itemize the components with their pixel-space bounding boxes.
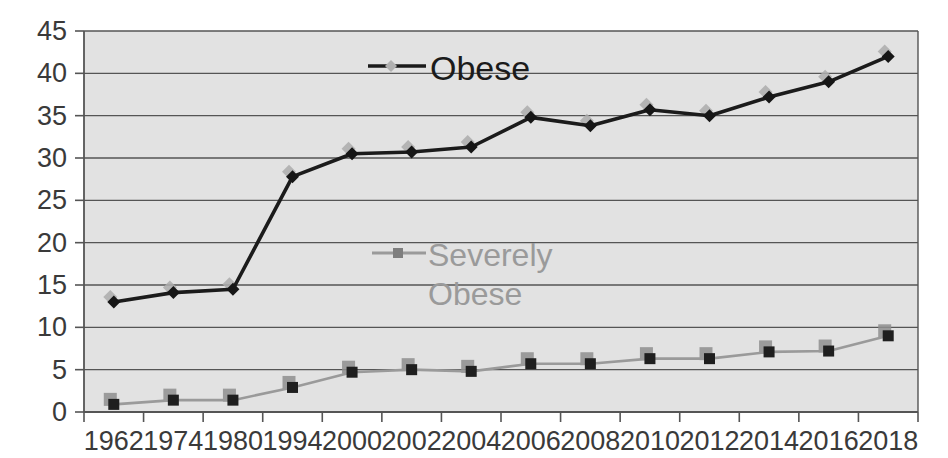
x-tick-label: 2002 xyxy=(382,426,442,456)
x-tick-label: 2000 xyxy=(322,426,382,456)
x-axis-tick-labels: 1962197419801994200020022004200620082010… xyxy=(84,412,919,456)
y-tick-label: 20 xyxy=(37,228,67,258)
x-tick-label: 1994 xyxy=(262,426,322,456)
data-point xyxy=(168,395,179,406)
data-point xyxy=(883,330,894,341)
legend-label-severely-obese-line2: Obese xyxy=(428,276,522,312)
y-tick-label: 35 xyxy=(37,101,67,131)
line-chart: 0510152025303540451962197419801994200020… xyxy=(0,0,948,458)
plot-area-background xyxy=(84,31,918,412)
legend-label-severely-obese-line1: Severely xyxy=(428,237,553,273)
legend-marker-severely-obese xyxy=(393,248,403,258)
data-point xyxy=(347,367,358,378)
y-tick-label: 15 xyxy=(37,270,67,300)
x-tick-label: 1980 xyxy=(203,426,263,456)
data-point xyxy=(823,346,834,357)
data-point xyxy=(227,395,238,406)
x-tick-label: 1974 xyxy=(143,426,203,456)
data-point xyxy=(704,353,715,364)
y-tick-label: 40 xyxy=(37,58,67,88)
x-tick-label: 1962 xyxy=(84,426,144,456)
y-tick-label: 25 xyxy=(37,185,67,215)
y-axis-tick-labels: 051015202530354045 xyxy=(37,16,67,427)
x-tick-label: 2016 xyxy=(799,426,859,456)
data-point xyxy=(287,382,298,393)
data-point xyxy=(525,358,536,369)
x-tick-label: 2008 xyxy=(560,426,620,456)
data-point xyxy=(764,346,775,357)
data-point xyxy=(108,399,119,410)
y-tick-label: 10 xyxy=(37,312,67,342)
data-point xyxy=(406,364,417,375)
legend-label-obese: Obese xyxy=(430,49,530,87)
x-tick-label: 2010 xyxy=(620,426,680,456)
y-tick-label: 45 xyxy=(37,16,67,46)
y-tick-label: 5 xyxy=(52,355,67,385)
data-point xyxy=(644,353,655,364)
x-tick-label: 2018 xyxy=(858,426,918,456)
x-tick-label: 2004 xyxy=(441,426,501,456)
data-point xyxy=(585,358,596,369)
x-tick-label: 2006 xyxy=(501,426,561,456)
data-point xyxy=(466,366,477,377)
y-tick-label: 0 xyxy=(52,397,67,427)
y-tick-label: 30 xyxy=(37,143,67,173)
x-tick-label: 2012 xyxy=(679,426,739,456)
chart-container: 0510152025303540451962197419801994200020… xyxy=(0,0,948,458)
x-tick-label: 2014 xyxy=(739,426,799,456)
